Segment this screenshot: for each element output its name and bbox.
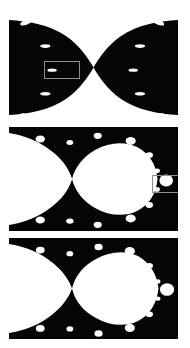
satellite-bulb [36,135,45,142]
satellite-bulb [66,251,73,256]
panel-bottom-canvas [9,238,178,339]
satellite-bulb [126,215,136,223]
satellite-bulb [95,330,103,336]
satellite-bulb [146,263,153,269]
zoom-panel-bottom[interactable] [9,238,178,339]
satellite-bulb [95,244,103,250]
satellite-bulb [159,175,173,187]
satellite-bulb [154,187,160,192]
satellite-bulb [125,324,135,332]
satellite-bulb [135,92,145,96]
satellite-bulb [47,69,56,72]
satellite-bulb [94,222,102,228]
satellite-bulb [66,218,73,223]
zoom-panel-top[interactable] [9,14,178,121]
satellite-bulb [40,92,50,96]
panel-top-canvas [9,14,178,121]
satellite-bulb [146,202,153,208]
panel-middle-canvas [9,127,178,231]
satellite-bulb [36,325,45,332]
satellite-bulb [66,326,73,331]
satellite-bulb [40,44,50,48]
satellite-bulb [155,296,160,300]
satellite-bulb [128,69,137,72]
satellite-bulb [125,247,135,255]
satellite-bulb [154,168,160,173]
zoom-panel-middle[interactable] [9,127,178,231]
satellite-bulb [155,279,160,283]
mandelbrot-zoom-figure [0,0,190,348]
satellite-bulb [66,140,73,145]
satellite-bulb [135,44,145,48]
satellite-bulb [94,133,102,139]
satellite-bulb [146,311,153,317]
satellite-bulb [36,247,45,254]
satellite-bulb [126,137,136,145]
satellite-bulb [160,283,174,296]
satellite-bulb [146,152,153,158]
satellite-bulb [36,217,45,224]
